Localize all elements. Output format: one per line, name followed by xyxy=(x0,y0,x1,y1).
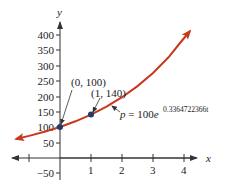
x-tick-2: 2 xyxy=(119,164,125,176)
leader-equation xyxy=(112,106,120,112)
equation-exponent: 0.3364722366t xyxy=(163,105,209,114)
x-tick-3: 3 xyxy=(150,164,156,176)
y-ticks xyxy=(56,35,60,173)
leader-point-a xyxy=(61,90,72,124)
y-axis-label: y xyxy=(56,6,62,18)
y-tick-300: 300 xyxy=(38,60,55,72)
y-tick-150: 150 xyxy=(38,106,55,118)
y-tick-400: 400 xyxy=(38,29,55,41)
y-tick-200: 200 xyxy=(38,91,55,103)
point-0-100 xyxy=(57,124,63,130)
equation-label: p = 100e xyxy=(119,108,159,120)
x-axis-label: x xyxy=(205,152,211,164)
x-tick-1: 1 xyxy=(88,164,94,176)
point-1-140 xyxy=(88,112,94,118)
exponential-chart: x y 1 2 3 4 400 350 300 250 200 150 100 … xyxy=(0,0,233,189)
y-tick-50: 50 xyxy=(43,137,55,149)
point-b-label: (1, 140) xyxy=(91,87,126,100)
y-tick-250: 250 xyxy=(38,75,55,87)
x-tick-4: 4 xyxy=(181,164,187,176)
y-tick-350: 350 xyxy=(38,44,55,56)
y-tick-neg50: −50 xyxy=(37,167,55,179)
